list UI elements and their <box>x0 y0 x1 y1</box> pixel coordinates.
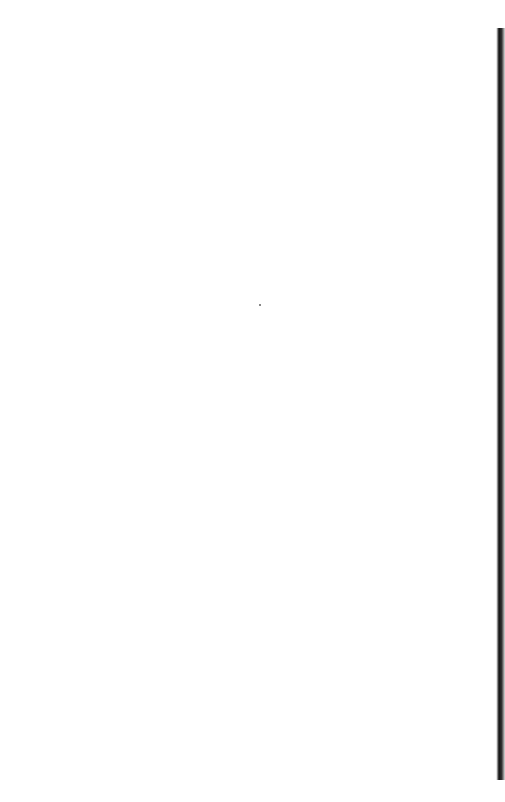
right-edge-strip <box>494 28 505 780</box>
scratchpad-drawing-area[interactable] <box>50 85 485 745</box>
center-dot <box>259 304 261 306</box>
scratchpad-page <box>0 0 505 802</box>
